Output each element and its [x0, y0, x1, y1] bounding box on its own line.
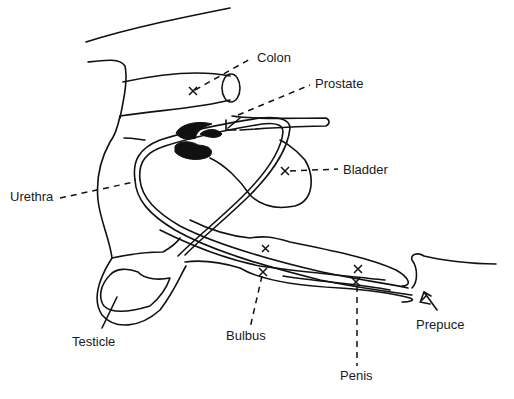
- label-colon: Colon: [257, 50, 291, 65]
- marker-icons: [189, 87, 362, 286]
- label-bulbus: Bulbus: [226, 328, 266, 343]
- prostate-leader: [238, 85, 310, 115]
- label-prostate: Prostate: [315, 76, 363, 91]
- anatomy-diagram: Colon Prostate Bladder Urethra Testicle …: [0, 0, 514, 399]
- bulbus-leader: [250, 276, 262, 328]
- label-testicle: Testicle: [72, 334, 115, 349]
- label-bladder: Bladder: [343, 162, 388, 177]
- testicle-shape: [101, 238, 180, 311]
- label-prepuce: Prepuce: [416, 317, 464, 332]
- bladder-leader: [290, 169, 338, 171]
- pelvic-outline: [97, 116, 186, 325]
- back-outline: [86, 8, 230, 42]
- bladder-shape: [210, 140, 311, 207]
- label-urethra: Urethra: [10, 189, 54, 204]
- colon-leader: [195, 58, 252, 90]
- colon-shape: [88, 60, 240, 118]
- prepuce-arrow-icon: [420, 292, 437, 310]
- label-penis: Penis: [340, 368, 373, 383]
